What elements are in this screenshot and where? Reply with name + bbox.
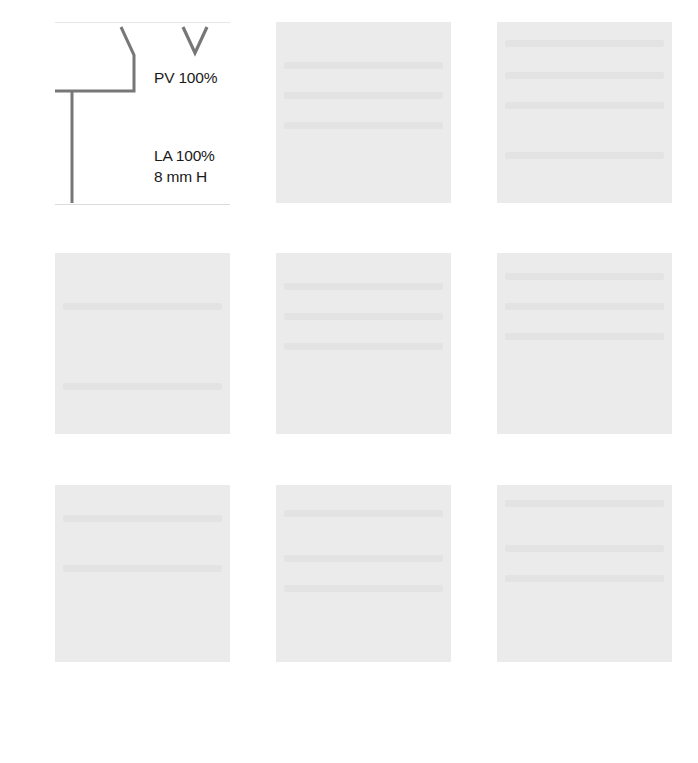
pv-label: PV 100%	[154, 69, 217, 87]
faded-tile[interactable]	[497, 22, 672, 203]
faded-tile[interactable]	[497, 485, 672, 662]
faded-text-line	[505, 273, 664, 280]
faded-text-line	[284, 283, 443, 290]
faded-text-line	[505, 545, 664, 552]
faded-tile[interactable]	[276, 253, 451, 434]
faded-tile[interactable]	[497, 253, 672, 434]
faded-text-line	[284, 555, 443, 562]
faded-text-line	[284, 92, 443, 99]
diagram-tile[interactable]: PV 100% LA 100% 8 mm H	[55, 22, 230, 205]
faded-text-line	[505, 500, 664, 507]
faded-tile[interactable]	[276, 22, 451, 203]
faded-text-line	[284, 510, 443, 517]
faded-text-line	[505, 40, 664, 47]
faded-text-line	[505, 102, 664, 109]
faded-text-line	[284, 343, 443, 350]
faded-text-line	[63, 565, 222, 572]
faded-tile[interactable]	[55, 485, 230, 662]
faded-tile[interactable]	[55, 253, 230, 434]
faded-text-line	[284, 313, 443, 320]
faded-text-line	[284, 62, 443, 69]
la-label: LA 100%	[154, 147, 215, 165]
faded-text-line	[284, 122, 443, 129]
faded-tile[interactable]	[276, 485, 451, 662]
faded-text-line	[284, 585, 443, 592]
faded-text-line	[63, 303, 222, 310]
faded-text-line	[63, 383, 222, 390]
mmh-label: 8 mm H	[154, 168, 207, 186]
faded-text-line	[505, 72, 664, 79]
faded-text-line	[505, 333, 664, 340]
faded-text-line	[63, 515, 222, 522]
faded-text-line	[505, 575, 664, 582]
faded-text-line	[505, 152, 664, 159]
faded-text-line	[505, 303, 664, 310]
